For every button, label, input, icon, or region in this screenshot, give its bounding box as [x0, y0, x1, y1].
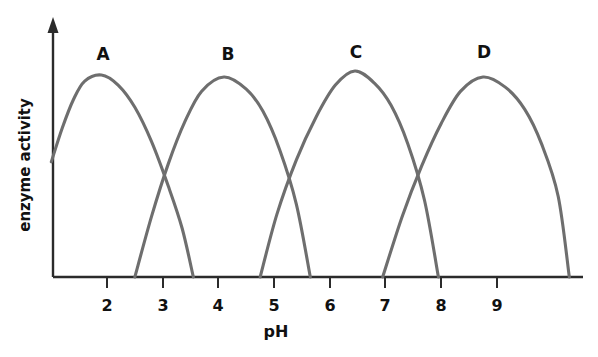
x-axis-ticks [107, 277, 497, 288]
x-tick-label-9: 9 [491, 296, 502, 315]
curve-a [51, 75, 193, 277]
curve-labels: A B C D [96, 42, 491, 64]
curve-label-c: C [350, 42, 362, 62]
up-arrow-icon [48, 17, 59, 33]
curves-group [51, 71, 569, 277]
x-tick-label-3: 3 [157, 296, 168, 315]
curve-b [135, 77, 310, 277]
curve-d [383, 77, 570, 277]
curve-label-d: D [477, 42, 491, 62]
x-tick-label-7: 7 [379, 296, 390, 315]
chart-canvas: 2 3 4 5 6 7 8 9 pH enzyme activity A B C… [0, 0, 598, 357]
y-axis-title: enzyme activity [16, 98, 34, 232]
x-tick-label-2: 2 [101, 296, 112, 315]
x-tick-label-6: 6 [324, 296, 335, 315]
x-tick-label-4: 4 [212, 296, 223, 315]
x-tick-label-8: 8 [435, 296, 446, 315]
curve-label-b: B [222, 44, 235, 64]
enzyme-activity-ph-chart: 2 3 4 5 6 7 8 9 pH enzyme activity A B C… [0, 0, 598, 357]
curve-label-a: A [96, 44, 110, 64]
x-tick-label-5: 5 [268, 296, 279, 315]
x-axis-title: pH [264, 322, 289, 341]
x-axis-tick-labels: 2 3 4 5 6 7 8 9 [101, 296, 502, 315]
